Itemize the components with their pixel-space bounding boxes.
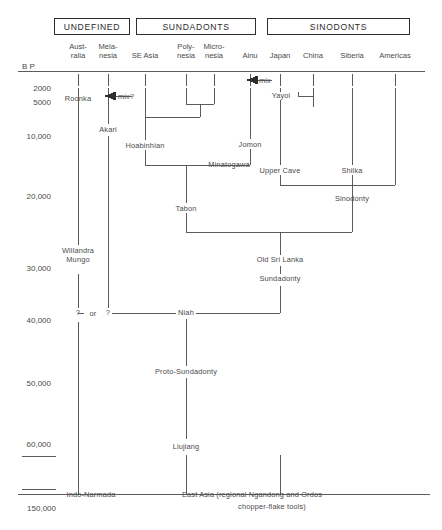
node-upper-cave: Upper Cave [260, 166, 301, 175]
node-willandra-line1: Willandra [62, 246, 94, 255]
node-sundadonty: Sundadonty [260, 274, 301, 283]
node-question-right: ? [106, 308, 110, 317]
node-willandra-mungo: Willandra Mungo [62, 246, 94, 264]
node-question-left: ? [76, 308, 80, 317]
node-mungo-line2: Mungo [62, 255, 94, 264]
node-akari: Akari [99, 125, 117, 134]
node-mix: mix [259, 76, 271, 85]
node-niah: Niah [178, 308, 194, 317]
node-old-sri-lanka: Old Sri Lanka [257, 255, 304, 264]
node-east-asia-line2: chopper-flake tools) [238, 502, 306, 511]
node-liujiang: Liujiang [173, 442, 200, 451]
node-indo-narmada: Indo-Narmada [66, 490, 115, 499]
node-jomon: Jomon [239, 140, 262, 149]
tree-lines [0, 0, 442, 530]
diagram-canvas: UNDEFINED SUNDADONTS SINODONTS Aust- ral… [0, 0, 442, 530]
node-sinodonty: Sinodonty [335, 194, 369, 203]
node-minatogawa: Minatogawa [208, 160, 249, 169]
node-roonka: Roonka [65, 94, 91, 103]
node-or: or [90, 309, 97, 318]
node-yayoi: Yayoi [272, 91, 291, 100]
node-mix-question: mix? [118, 92, 134, 101]
node-shilka: Shilka [341, 166, 362, 175]
node-hoabinhian: Hoabinhian [126, 141, 165, 150]
node-proto-sundadonty: Proto-Sundadonty [155, 367, 217, 376]
node-tabon: Tabon [176, 204, 197, 213]
node-east-asia-line1: East Asia (regional Ngandong and Ordos [182, 490, 322, 499]
